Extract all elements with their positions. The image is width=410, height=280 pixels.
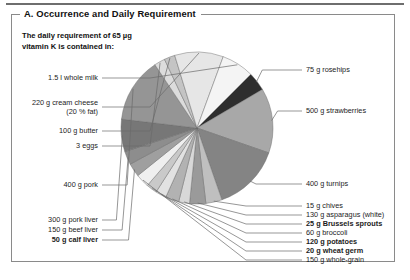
callout-label: 300 g pork liver — [48, 216, 98, 224]
callout-label: 500 g strawberries — [306, 107, 366, 115]
chart-page: A. Occurrence and Daily Requirement The … — [0, 0, 410, 280]
leader-line — [272, 111, 302, 121]
callout-label: 100 g butter — [59, 127, 98, 135]
callout-label: 220 g cream cheese (20 % fat) — [32, 99, 98, 116]
callout-label: 150 g whole-grain — [306, 256, 364, 264]
callout-label: 50 g calf liver — [52, 236, 98, 244]
leader-line — [256, 70, 302, 82]
leader-line — [102, 158, 128, 230]
callout-label: 3 eggs — [76, 142, 98, 150]
callout-label: 150 g beef liver — [48, 226, 98, 234]
leader-line — [214, 201, 302, 206]
callout-label: 75 g rosehips — [306, 66, 350, 74]
leader-line — [102, 135, 122, 220]
callout-label: 1.5 l whole milk — [48, 74, 98, 82]
leader-line — [198, 203, 302, 215]
leader-line — [250, 181, 302, 184]
callout-label: 400 g turnips — [306, 180, 348, 188]
leader-line — [102, 170, 135, 241]
page-title: A. Occurrence and Daily Requirement — [20, 8, 201, 19]
callout-label: 400 g pork — [64, 181, 98, 189]
